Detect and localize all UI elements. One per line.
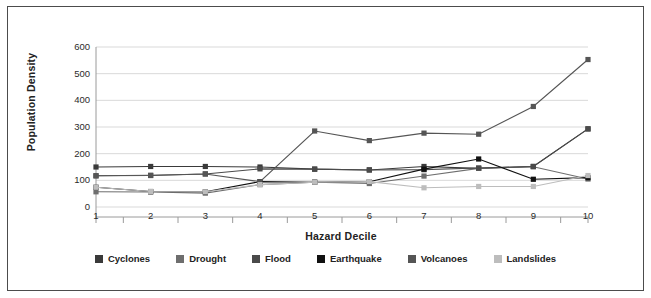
legend-item-landslides[interactable]: Landslides [494, 253, 557, 264]
legend-label: Cyclones [108, 253, 150, 264]
y-tick-label: 300 [56, 121, 90, 132]
data-point-marker [585, 173, 590, 178]
data-point-marker [367, 167, 372, 172]
x-tick-marks [96, 217, 588, 223]
data-point-marker [476, 132, 481, 137]
data-point-marker [148, 164, 153, 169]
data-point-marker [257, 182, 262, 187]
data-point-marker [257, 166, 262, 171]
data-point-marker [421, 173, 426, 178]
legend-item-cyclones[interactable]: Cyclones [95, 253, 150, 264]
data-point-marker [531, 184, 536, 189]
data-point-marker [93, 185, 98, 190]
data-point-marker [312, 167, 317, 172]
x-tick-label: 4 [245, 210, 275, 221]
data-point-marker [93, 173, 98, 178]
legend-swatch-icon [408, 255, 416, 263]
x-tick-label: 7 [409, 210, 439, 221]
legend-swatch-icon [252, 255, 260, 263]
data-point-marker [531, 104, 536, 109]
x-tick-label: 8 [464, 210, 494, 221]
y-tick-label: 200 [56, 148, 90, 159]
legend-item-volcanoes[interactable]: Volcanoes [408, 253, 468, 264]
data-point-marker [476, 184, 481, 189]
data-point-marker [476, 165, 481, 170]
data-series-layer [93, 57, 590, 196]
series-line [96, 129, 588, 170]
x-tick-label: 6 [354, 210, 384, 221]
data-point-marker [203, 164, 208, 169]
y-tick-label: 100 [56, 174, 90, 185]
data-point-marker [93, 164, 98, 169]
series-line [96, 60, 588, 182]
legend-label: Landslides [507, 253, 557, 264]
data-point-marker [367, 179, 372, 184]
y-tick-label: 400 [56, 94, 90, 105]
data-point-marker [203, 171, 208, 176]
legend-swatch-icon [95, 255, 103, 263]
data-point-marker [148, 173, 153, 178]
x-tick-label: 9 [518, 210, 548, 221]
y-axis-title: Population Density [25, 37, 37, 167]
x-tick-label: 1 [81, 210, 111, 221]
series-landslides [93, 173, 590, 194]
data-point-marker [367, 138, 372, 143]
x-tick-label: 10 [573, 210, 603, 221]
chart-legend: CyclonesDroughtFloodEarthquakeVolcanoesL… [0, 253, 651, 264]
data-point-marker [585, 57, 590, 62]
legend-swatch-icon [494, 255, 502, 263]
x-tick-label: 2 [136, 210, 166, 221]
data-point-marker [203, 189, 208, 194]
legend-label: Flood [265, 253, 291, 264]
legend-label: Drought [189, 253, 226, 264]
data-point-marker [421, 131, 426, 136]
legend-item-earthquake[interactable]: Earthquake [317, 253, 382, 264]
series-cyclones [93, 126, 590, 172]
y-tick-label: 500 [56, 68, 90, 79]
series-line [96, 176, 588, 192]
legend-swatch-icon [176, 255, 184, 263]
data-point-marker [476, 156, 481, 161]
y-tick-label: 600 [56, 41, 90, 52]
legend-label: Earthquake [330, 253, 382, 264]
data-point-marker [585, 126, 590, 131]
data-point-marker [531, 164, 536, 169]
data-point-marker [312, 180, 317, 185]
x-tick-label: 5 [300, 210, 330, 221]
data-point-marker [531, 177, 536, 182]
legend-label: Volcanoes [421, 253, 468, 264]
legend-item-flood[interactable]: Flood [252, 253, 291, 264]
legend-item-drought[interactable]: Drought [176, 253, 226, 264]
chart-figure: Population Density Hazard Decile 0100200… [0, 0, 651, 298]
data-point-marker [421, 167, 426, 172]
series-flood [93, 126, 590, 178]
series-volcanoes [93, 57, 590, 184]
x-tick-label: 3 [190, 210, 220, 221]
data-point-marker [421, 185, 426, 190]
x-axis-title: Hazard Decile [96, 230, 586, 242]
data-point-marker [93, 189, 98, 194]
legend-swatch-icon [317, 255, 325, 263]
data-point-marker [148, 189, 153, 194]
data-point-marker [312, 128, 317, 133]
